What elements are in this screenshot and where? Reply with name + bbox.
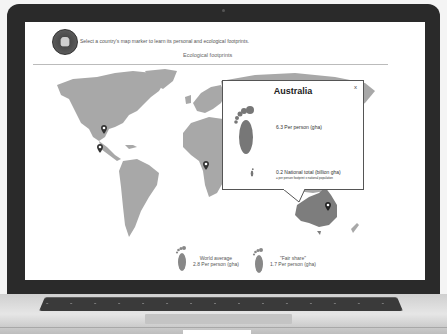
instruction-text: Select a country's map marker to learn i… xyxy=(80,38,249,44)
footprint-large-icon xyxy=(233,103,257,157)
close-button[interactable]: x xyxy=(354,84,357,90)
base-notch xyxy=(183,330,251,334)
land-south-america xyxy=(119,159,159,237)
popup-tail xyxy=(283,189,323,203)
world-average-legend: World average 2.8 Per person (gha) xyxy=(193,255,239,267)
map-pin-icon-selected[interactable] xyxy=(325,202,331,211)
base-edge xyxy=(0,327,447,328)
app-screen: Select a country's map marker to learn i… xyxy=(25,22,425,280)
world-average-footprint-icon xyxy=(175,244,187,272)
popup-title: Australia xyxy=(223,86,363,96)
national-total-value: 0.2 National total (billion gha) xyxy=(276,169,341,175)
camera-icon xyxy=(222,9,225,12)
map-pin-icon[interactable] xyxy=(203,161,209,170)
land-europe xyxy=(193,85,225,113)
map-pin-icon[interactable] xyxy=(101,125,107,134)
divider xyxy=(33,64,388,65)
trackpad xyxy=(145,314,292,324)
map-pin-icon[interactable] xyxy=(97,144,103,153)
fair-share-legend: "Fair share" 1.7 Per person (gha) xyxy=(270,255,316,267)
national-formula: = per person footprint x national popula… xyxy=(276,176,333,180)
fair-share-footprint-icon xyxy=(252,246,264,274)
fair-share-value: 1.7 Per person (gha) xyxy=(270,261,316,267)
elephant-logo-icon xyxy=(52,29,78,55)
world-average-value: 2.8 Per person (gha) xyxy=(193,261,239,267)
per-person-value: 6.3 Per person (gha) xyxy=(276,124,322,130)
keyboard xyxy=(39,297,403,311)
footprint-small-icon xyxy=(250,168,254,177)
country-popup: Australia x 6.3 Per person (gha) 0.2 Nat… xyxy=(222,80,364,190)
land-north-america xyxy=(57,71,165,141)
section-title: Ecological footprints xyxy=(183,52,232,58)
elephant-icon xyxy=(61,37,69,46)
